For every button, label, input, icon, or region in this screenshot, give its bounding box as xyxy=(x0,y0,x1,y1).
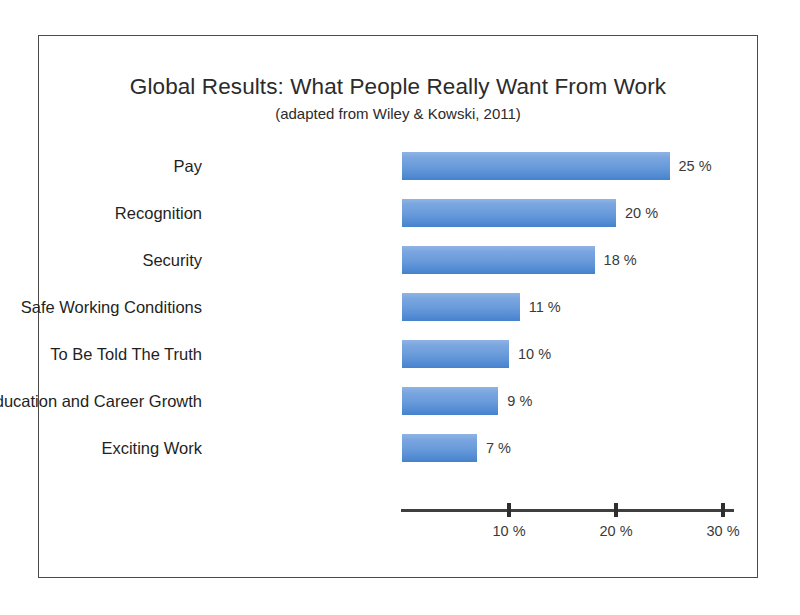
bar-value-label: 10 % xyxy=(518,346,551,362)
bar-value-label: 9 % xyxy=(507,393,532,409)
bar-row: Education and Career Growth9 % xyxy=(39,387,759,415)
bar-value-label: 7 % xyxy=(486,440,511,456)
bar-value-label: 20 % xyxy=(625,205,658,221)
bar-fill xyxy=(402,434,477,462)
category-label: To Be Told The Truth xyxy=(50,345,202,364)
axis-tick-label: 10 % xyxy=(492,523,525,539)
category-label: Safe Working Conditions xyxy=(21,298,202,317)
bar-fill xyxy=(402,293,520,321)
bar[interactable] xyxy=(402,434,477,462)
category-label: Security xyxy=(142,251,202,270)
bar-row: To Be Told The Truth10 % xyxy=(39,340,759,368)
title-block: Global Results: What People Really Want … xyxy=(39,74,757,122)
axis-tick-mark xyxy=(614,503,618,517)
bar-value-label: 11 % xyxy=(529,299,561,315)
bar-row: Exciting Work7 % xyxy=(39,434,759,462)
bar[interactable] xyxy=(402,340,509,368)
axis-tick-mark xyxy=(721,503,725,517)
bar-row: Recognition20 % xyxy=(39,199,759,227)
bar[interactable] xyxy=(402,152,670,180)
bar-fill xyxy=(402,152,670,180)
axis-tick-label: 30 % xyxy=(706,523,739,539)
bar-fill xyxy=(402,387,498,415)
bar-chart-plot-area: Pay25 %Recognition20 %Security18 %Safe W… xyxy=(39,152,759,552)
bar-fill xyxy=(402,246,595,274)
category-label: Exciting Work xyxy=(101,439,202,458)
bar-value-label: 18 % xyxy=(604,252,637,268)
bar-fill xyxy=(402,199,616,227)
chart-title: Global Results: What People Really Want … xyxy=(39,74,757,100)
bar-row: Security18 % xyxy=(39,246,759,274)
axis-tick-label: 20 % xyxy=(599,523,632,539)
x-axis: 10 %20 %30 % xyxy=(39,495,759,555)
bar-fill xyxy=(402,340,509,368)
x-axis-line xyxy=(401,509,734,512)
category-label: Education and Career Growth xyxy=(0,392,202,411)
bar-row: Pay25 % xyxy=(39,152,759,180)
category-label: Pay xyxy=(174,157,202,176)
bar-row: Safe Working Conditions11 % xyxy=(39,293,759,321)
bar[interactable] xyxy=(402,199,616,227)
bar[interactable] xyxy=(402,387,498,415)
slide-frame: Global Results: What People Really Want … xyxy=(38,35,758,578)
axis-tick-mark xyxy=(507,503,511,517)
bar[interactable] xyxy=(402,246,595,274)
bar-value-label: 25 % xyxy=(679,158,712,174)
bar[interactable] xyxy=(402,293,520,321)
chart-subtitle: (adapted from Wiley & Kowski, 2011) xyxy=(39,105,757,122)
category-label: Recognition xyxy=(115,204,202,223)
